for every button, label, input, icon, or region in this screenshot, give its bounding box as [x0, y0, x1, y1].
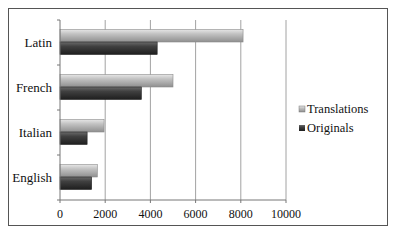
bar-chart: LatinFrenchItalianEnglish 02000400060008…	[0, 0, 395, 235]
category-label: French	[16, 80, 53, 95]
category-labels: LatinFrenchItalianEnglish	[12, 35, 52, 185]
legend: Translations Originals	[299, 102, 368, 135]
legend-swatch-originals	[299, 125, 305, 131]
x-tick-label: 0	[57, 207, 63, 221]
bar-originals-italian	[60, 132, 87, 145]
bar-originals-latin	[60, 42, 157, 55]
category-label: English	[12, 170, 52, 185]
bar-translations-english	[60, 165, 97, 178]
legend-swatch-translations	[299, 106, 305, 112]
x-tick-label: 2000	[93, 207, 117, 221]
legend-label-translations: Translations	[307, 102, 368, 116]
category-label: Latin	[25, 35, 53, 50]
bar-originals-english	[60, 177, 92, 190]
x-tick-label: 8000	[229, 207, 253, 221]
x-tick-labels: 0200040006000800010000	[57, 207, 301, 221]
bars	[60, 30, 243, 190]
x-tick-label: 10000	[271, 207, 301, 221]
legend-label-originals: Originals	[307, 121, 354, 135]
category-label: Italian	[19, 125, 53, 140]
bar-translations-italian	[60, 120, 104, 133]
x-tick-label: 4000	[138, 207, 162, 221]
bar-originals-french	[60, 87, 141, 100]
bar-translations-french	[60, 75, 173, 88]
x-tick-label: 6000	[184, 207, 208, 221]
bar-translations-latin	[60, 30, 243, 43]
